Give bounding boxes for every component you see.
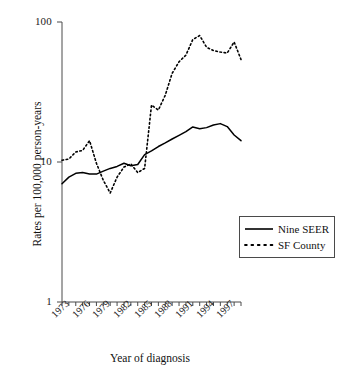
legend-item-sf-county: SF County: [244, 237, 329, 253]
legend-swatch-solid-icon: [244, 224, 274, 234]
legend-label-sf-county: SF County: [278, 239, 325, 251]
chart-legend: Nine SEER SF County: [239, 216, 335, 258]
legend-swatch-dotted-icon: [244, 240, 274, 250]
series-line-nine-seer: [62, 124, 241, 184]
series-line-sf-county: [62, 36, 241, 193]
chart-plot-area: [0, 0, 340, 375]
y-tick-label-1: 1: [18, 295, 52, 307]
figure-container: 100 10 1 1973197619791982198519881991199…: [0, 0, 340, 375]
y-axis-title: Rates per 100,000 person-years: [31, 59, 43, 289]
y-axis-ticks: [57, 22, 62, 302]
legend-item-nine-seer: Nine SEER: [244, 221, 329, 237]
legend-label-nine-seer: Nine SEER: [278, 223, 329, 235]
x-axis-title: Year of diagnosis: [0, 352, 300, 364]
y-tick-label-100: 100: [18, 15, 52, 27]
